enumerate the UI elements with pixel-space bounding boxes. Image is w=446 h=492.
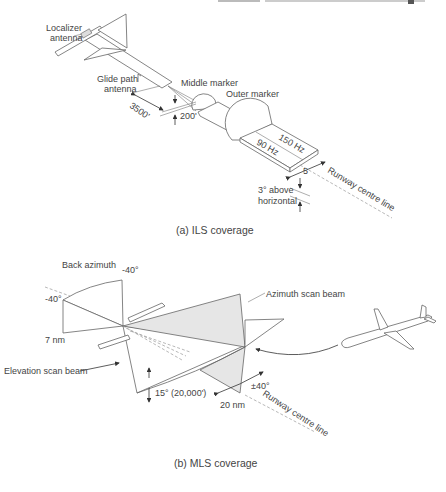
label-glide-2: antenna — [104, 84, 137, 94]
label-above-2: horizontal — [258, 196, 297, 206]
label-neg40-top: -40° — [122, 265, 139, 275]
label-back-azimuth: Back azimuth — [62, 260, 116, 270]
ils-coverage-diagram: 150 Hz 90 Hz 3500' 200' 5 3° above horiz… — [46, 14, 397, 236]
aircraft-icon — [342, 305, 436, 349]
mls-caption: (b) MLS coverage — [174, 457, 258, 469]
label-glide-1: Glide path — [97, 74, 138, 84]
label-neg40-left: -40° — [45, 294, 62, 304]
label-localizer-1: Localizer — [46, 23, 82, 33]
label-above-1: 3° above — [258, 185, 294, 195]
back-azimuth-sector — [45, 280, 123, 333]
label-localizer-2: antenna — [50, 33, 83, 43]
ils-caption: (a) ILS coverage — [176, 224, 254, 236]
label-seven-nm: 7 nm — [45, 335, 65, 345]
label-five: 5 — [303, 166, 308, 176]
label-outer-marker: Outer marker — [226, 89, 279, 99]
header-cropped-text — [218, 0, 425, 4]
glide-path-antenna-icon — [138, 74, 141, 82]
label-twenty-nm: 20 nm — [220, 400, 245, 410]
label-elevation-beam: Elevation scan beam — [4, 366, 88, 376]
label-ils-runway: Runway centre line — [326, 165, 397, 213]
ils-mls-diagram: 150 Hz 90 Hz 3500' 200' 5 3° above horiz… — [0, 0, 446, 492]
approach-arrow — [256, 345, 338, 355]
label-middle-marker: Middle marker — [181, 78, 238, 88]
label-azimuth-beam: Azimuth scan beam — [266, 289, 345, 299]
label-3500: 3500' — [128, 100, 152, 121]
label-fifteen: 15° (20,000') — [155, 388, 206, 398]
label-200: 200' — [180, 111, 197, 121]
label-mls-runway: Runway centre line — [261, 388, 331, 438]
mls-coverage-diagram: Runway centre line 15° (20,000') ±40° 20… — [4, 260, 436, 469]
label-pm40: ±40° — [251, 381, 270, 391]
